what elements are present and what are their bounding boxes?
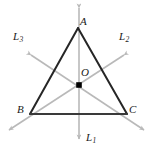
vertex-label-A: A (80, 16, 87, 27)
axis-label-L2: L2 (119, 31, 129, 42)
center-point-dot (76, 82, 82, 88)
axis-line-L2 (9, 55, 124, 130)
vertex-label-B: B (17, 104, 24, 115)
axis-label-L2-subscript: 2 (125, 35, 129, 44)
figure-canvas (0, 0, 151, 154)
axis-label-L3-subscript: 3 (19, 35, 23, 44)
vertex-label-C: C (129, 104, 136, 115)
axis-label-L3: L3 (13, 31, 23, 42)
axis-label-L1-subscript: 1 (92, 136, 96, 145)
geometry-figure: A B C O L1 L2 L3 (0, 0, 151, 154)
center-label-O: O (81, 67, 89, 78)
axis-label-L1: L1 (86, 132, 96, 143)
